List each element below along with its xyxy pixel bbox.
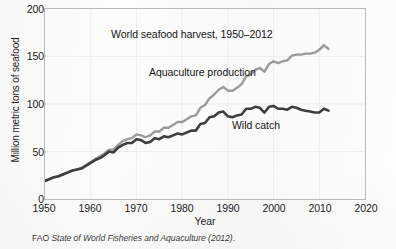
caption-title: State of World Fisheries and Aquaculture… [51, 233, 232, 243]
series-line-wild-catch [45, 106, 328, 181]
x-tick-2010: 2010 [300, 203, 340, 214]
x-tick-1990: 1990 [208, 203, 248, 214]
caption-prefix: FAO [32, 233, 51, 243]
chart-title: World seafood harvest, 1950–2012 [111, 29, 273, 40]
x-tick-1970: 1970 [116, 203, 156, 214]
x-tick-1960: 1960 [70, 203, 110, 214]
x-tick-2020: 2020 [346, 203, 386, 214]
y-axis-label: Million metric tons of seafood [11, 5, 21, 195]
series-label-aquaculture: Aquaculture production [149, 67, 256, 78]
x-axis-label: Year [44, 216, 366, 227]
seafood-harvest-chart: 200 150 100 50 0 1950 1960 1970 1980 199… [0, 0, 396, 249]
series-label-wild-catch: Wild catch [232, 120, 280, 131]
source-caption: FAO State of World Fisheries and Aquacul… [32, 233, 235, 243]
x-tick-1980: 1980 [162, 203, 202, 214]
x-tick-1950: 1950 [24, 203, 64, 214]
caption-suffix: . [233, 233, 235, 243]
x-tick-2000: 2000 [254, 203, 294, 214]
